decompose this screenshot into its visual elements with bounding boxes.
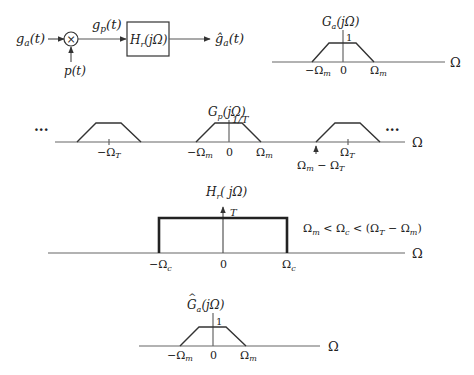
filter-label: Hr(jΩ) (129, 33, 168, 49)
ga-title: Ga(jΩ) (322, 15, 360, 31)
gp-ellipsis-left: ··· (34, 122, 49, 138)
gp-diff-label: Ωm − ΩT (297, 159, 345, 173)
hr-axis-label: Ω (412, 246, 423, 261)
gp-label-neg-t: −ΩT (97, 146, 121, 160)
sampling-reconstruction-diagram: ga(t) × p(t) gp(t) Hr(jΩ) ĝa(t) Ga(jΩ) 1… (0, 0, 474, 375)
gp-label-zero: 0 (226, 146, 233, 159)
ga-hat-tick-neg-m: −Ωm (167, 349, 193, 363)
hr-title: Hr( jΩ) (205, 185, 247, 201)
hr-label-zero: 0 (220, 258, 227, 271)
ga-tick-pos-m: Ωm (370, 64, 387, 78)
plot-ga-hat: Ga(jΩ) ^ 1 −Ωm 0 Ωm Ω (139, 291, 339, 363)
gp-label-pos-m: Ωm (256, 146, 273, 160)
gp-label-pos-t: ΩT (340, 146, 355, 160)
sampling-signal-label: p(t) (64, 64, 86, 78)
gp-axis-label: Ω (412, 135, 423, 150)
sampled-signal-label: gp(t) (92, 17, 121, 34)
gp-peak-label: 1/T (232, 114, 250, 125)
gp-ellipsis-right: ··· (385, 122, 400, 138)
hr-peak-label: T (230, 207, 238, 218)
ga-tick-zero: 0 (340, 64, 347, 77)
ga-hat-accent: ^ (188, 291, 196, 302)
ga-tick-neg-m: −Ωm (305, 64, 331, 78)
ga-hat-axis-label: Ω (328, 339, 339, 354)
ga-axis-label: Ω (450, 55, 461, 70)
ga-hat-peak-label: 1 (216, 316, 222, 327)
hr-cutoff-condition: Ωm < Ωc < (ΩT − Ωm) (303, 222, 422, 237)
ga-peak-label: 1 (346, 32, 352, 43)
plot-gp: Gp(jΩ) ··· 1/T −ΩT −Ωm 0 Ωm Ωm − ΩT ΩT ·… (34, 105, 423, 173)
plot-ga: Ga(jΩ) 1 −Ωm 0 Ωm Ω (272, 15, 461, 78)
ga-hat-tick-zero: 0 (210, 349, 217, 362)
gp-label-neg-m: −Ωm (187, 146, 213, 160)
hr-label-pos-c: Ωc (282, 258, 296, 273)
block-diagram: ga(t) × p(t) gp(t) Hr(jΩ) ĝa(t) (16, 17, 244, 78)
multiply-icon: × (66, 33, 75, 46)
ga-hat-tick-pos-m: Ωm (240, 349, 257, 363)
input-signal-label: ga(t) (16, 31, 45, 48)
output-signal-label: ĝa(t) (215, 31, 244, 48)
hr-label-neg-c: −Ωc (149, 258, 172, 273)
plot-hr: Hr( jΩ) T −Ωc 0 Ωc Ωm < Ωc < (ΩT − Ωm) Ω (48, 185, 423, 273)
